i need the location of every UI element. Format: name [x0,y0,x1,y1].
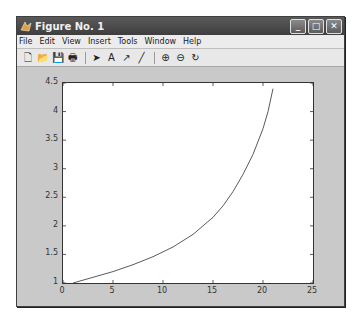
x-tick-label: 25 [302,286,322,295]
x-tick-label: 0 [52,286,72,295]
save-icon[interactable]: 💾 [51,51,64,64]
new-file-icon[interactable]: 🗋 [21,51,34,64]
axes[interactable] [62,82,314,284]
y-tick-label: 2.5 [38,191,58,200]
menu-window[interactable]: Window [145,37,177,46]
toolbar: 🗋 📂 💾 🖶 ➤ A ↗ ╱ ⊕ ⊖ ↻ [17,49,344,67]
x-tick-label: 5 [102,286,122,295]
menu-bar: File Edit View Insert Tools Window Help [17,35,344,49]
toolbar-separator [154,52,155,64]
data-line [73,89,273,283]
close-button[interactable]: ✕ [326,19,342,34]
toolbar-separator [85,52,86,64]
line-icon[interactable]: ╱ [135,51,148,64]
window-title: Figure No. 1 [35,21,290,32]
text-icon[interactable]: A [105,51,118,64]
plot-canvas [63,83,313,283]
x-tick-label: 10 [152,286,172,295]
y-tick-label: 3 [38,163,58,172]
y-tick-label: 4 [38,106,58,115]
x-tick-label: 15 [202,286,222,295]
select-arrow-icon[interactable]: ➤ [90,51,103,64]
rotate-icon[interactable]: ↻ [189,51,202,64]
maximize-button[interactable]: □ [308,19,324,34]
y-tick-label: 1 [38,277,58,286]
zoom-out-icon[interactable]: ⊖ [174,51,187,64]
minimize-button[interactable]: _ [290,19,306,34]
zoom-in-icon[interactable]: ⊕ [159,51,172,64]
print-icon[interactable]: 🖶 [66,51,79,64]
arrow-icon[interactable]: ↗ [120,51,133,64]
y-tick-label: 1.5 [38,248,58,257]
title-bar[interactable]: Figure No. 1 _ □ ✕ [17,17,344,35]
y-tick-label: 3.5 [38,134,58,143]
menu-file[interactable]: File [19,37,32,46]
y-tick-label: 4.5 [38,77,58,86]
menu-help[interactable]: Help [183,37,201,46]
menu-insert[interactable]: Insert [88,37,111,46]
open-folder-icon[interactable]: 📂 [36,51,49,64]
y-tick-label: 2 [38,220,58,229]
matlab-icon [20,20,32,32]
menu-edit[interactable]: Edit [39,37,55,46]
x-tick-label: 20 [252,286,272,295]
menu-tools[interactable]: Tools [118,37,138,46]
menu-view[interactable]: View [62,37,81,46]
figure-window: Figure No. 1 _ □ ✕ File Edit View Insert… [16,16,345,307]
